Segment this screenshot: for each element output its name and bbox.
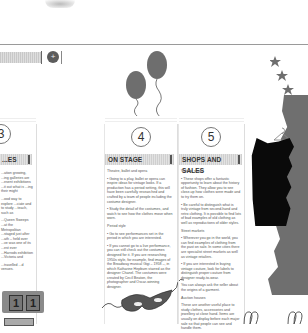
panel-stripes [179,116,244,122]
divider-mark [61,51,62,64]
header-bar [0,52,42,63]
masquerade-mask-icon [100,278,190,324]
section-divider [0,44,308,45]
ticket-stub-image: 1 1 [2,291,44,313]
panel-body: Theatre, ballet and opera • Going to a p… [107,169,173,293]
top-image-fragment [45,0,75,8]
black-dress-illustration [250,138,294,226]
panel-5: 5 SHOPS AND SALES Vintage shops • These … [178,124,245,324]
panel-number: 3 [0,124,11,144]
panel-title: SHOPS AND SALES [179,154,242,165]
panel-title: ...ES [0,154,32,165]
panel-stripes [0,116,36,122]
ticket-stub-second [4,318,34,326]
panel-title: ON STAGE [105,154,174,165]
decorative-loops-icon [240,306,308,324]
balloons-icon [120,48,180,118]
header-bar-end [41,51,42,64]
panel-body: Vintage shops • These shops offer a fant… [181,169,241,333]
panel-number: 5 [201,127,221,147]
panel-body: ...ation growing, ...ing galleries are .… [1,171,33,275]
plus-circle-icon: + [47,51,59,63]
panel-number: 4 [131,127,151,147]
panel-stripes [105,116,177,122]
